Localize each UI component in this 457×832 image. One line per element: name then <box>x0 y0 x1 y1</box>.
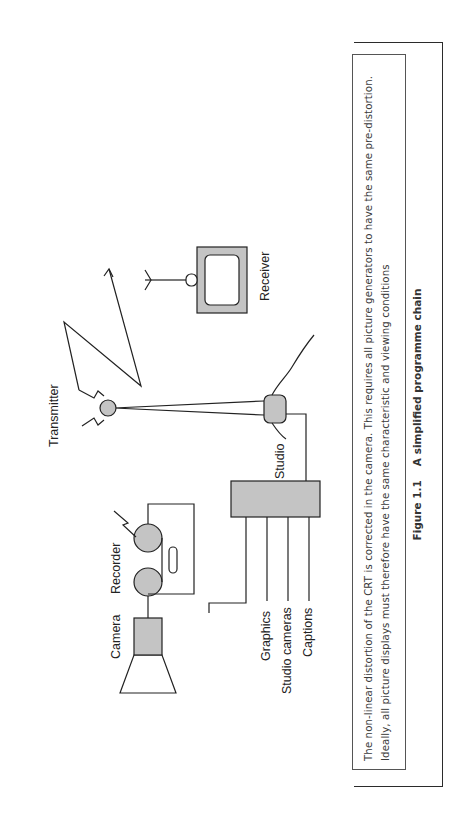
recorder-reel-icon <box>134 568 162 596</box>
camera-label: Camera <box>110 615 123 659</box>
studio-cameras-label: Studio cameras <box>281 607 294 694</box>
camera-lens-icon <box>120 655 176 693</box>
figure-title-text: A simplified programme chain <box>411 289 423 467</box>
transmitter-icon <box>100 400 116 416</box>
studio-label: Studio <box>274 444 287 479</box>
camera-icon <box>134 618 162 655</box>
broadcast-signal-path <box>64 269 141 390</box>
figure-caption-text: The non-linear distortion of the CRT is … <box>363 76 391 761</box>
graphics-label: Graphics <box>260 611 273 661</box>
cable-icon <box>272 335 314 395</box>
studio-to-mast-line <box>286 414 306 481</box>
mast-base-icon <box>264 395 286 423</box>
receiver-screen <box>205 255 239 305</box>
receiver-label: Receiver <box>259 252 272 301</box>
cable-icon <box>272 423 286 439</box>
transmitter-label: Transmitter <box>48 384 61 447</box>
captions-label: Captions <box>302 608 315 657</box>
figure-title: Figure 1.1A simplified programme chain <box>411 42 423 787</box>
recorder-tape-icon <box>169 547 177 573</box>
studio-box <box>231 481 320 517</box>
radio-wave-icon <box>82 418 104 426</box>
figure-caption-box: The non-linear distortion of the CRT is … <box>352 54 406 770</box>
diagram-overlay <box>24 42 354 787</box>
figure-number: Figure 1.1 <box>411 480 423 540</box>
signal-arrow-icon <box>104 269 113 277</box>
rotated-page: Camera Recorder Transmitter Studio Recei… <box>24 42 443 787</box>
transmitter-mast <box>114 401 264 415</box>
recorder-label: Recorder <box>110 543 123 594</box>
recorder-reel-icon <box>134 524 162 552</box>
receiver-connector <box>186 274 197 286</box>
radio-wave-icon <box>79 390 104 398</box>
studio-link-from-recorder <box>209 517 246 613</box>
link-break-icon <box>114 511 136 537</box>
